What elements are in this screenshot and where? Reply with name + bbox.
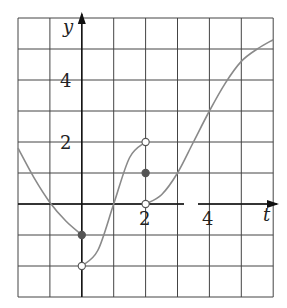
graph: 2 4 2 4 t y: [0, 0, 287, 308]
axes: [18, 12, 279, 297]
y-axis-label: y: [62, 16, 74, 37]
x-axis-label: t: [263, 204, 271, 225]
x-tick-4: 4: [202, 208, 213, 229]
x-tick-2: 2: [139, 208, 150, 229]
y-tick-2: 2: [60, 132, 71, 153]
filled-dot-icon: [78, 231, 85, 238]
open-dot-icon: [142, 138, 149, 145]
grid-lines: [18, 18, 273, 297]
tick-label-bg: [184, 199, 198, 229]
open-dot-icon: [142, 200, 149, 207]
y-tick-4: 4: [60, 70, 71, 91]
open-dot-icon: [78, 262, 85, 269]
filled-dot-icon: [142, 169, 149, 176]
